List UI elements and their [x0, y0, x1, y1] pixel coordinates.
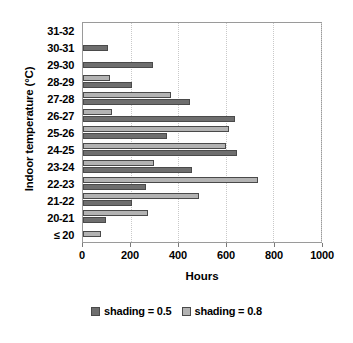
legend-swatch-icon	[91, 307, 100, 316]
plot-area	[82, 22, 322, 243]
bar-group	[83, 141, 321, 158]
legend-item: shading = 0.8	[182, 305, 262, 317]
y-axis-category-label: 25-26	[22, 124, 78, 141]
bar-group	[83, 40, 321, 57]
legend-item: shading = 0.5	[91, 305, 171, 317]
y-axis-category-label: 30-31	[22, 39, 78, 56]
bar-shading-0-8	[83, 177, 258, 183]
legend-label: shading = 0.5	[104, 305, 171, 317]
bar-shading-0-5	[83, 167, 192, 173]
bar-group	[83, 74, 321, 91]
bar-group	[83, 57, 321, 74]
bar-group	[83, 23, 321, 40]
y-axis-category-label: 31-32	[22, 22, 78, 39]
bar-shading-0-5	[83, 82, 132, 88]
bar-shading-0-8	[83, 193, 199, 199]
x-axis-tick	[322, 243, 323, 247]
bar-shading-0-8	[83, 143, 226, 149]
bar-shading-0-5	[83, 62, 153, 68]
x-axis-tick	[82, 243, 83, 247]
x-axis-title: Hours	[82, 270, 322, 282]
bar-group	[83, 225, 321, 242]
bar-group	[83, 107, 321, 124]
x-axis-tick-label: 400	[169, 249, 187, 261]
x-axis-tick-label: 1000	[310, 249, 334, 261]
x-axis-tick-label: 800	[265, 249, 283, 261]
x-axis-tick-label: 0	[79, 249, 85, 261]
y-axis-category-label: 21-22	[22, 192, 78, 209]
bar-shading-0-8	[83, 109, 112, 115]
bar-group	[83, 158, 321, 175]
bar-shading-0-5	[83, 150, 237, 156]
bar-shading-0-5	[83, 184, 146, 190]
bar-group	[83, 175, 321, 192]
bar-shading-0-8	[83, 75, 110, 81]
bar-group	[83, 191, 321, 208]
bar-group	[83, 90, 321, 107]
bar-shading-0-5	[83, 116, 235, 122]
y-axis-category-label: 27-28	[22, 90, 78, 107]
bar-shading-0-8	[83, 210, 148, 216]
x-axis-tick-label: 600	[217, 249, 235, 261]
x-axis-tick-label: 200	[121, 249, 139, 261]
y-axis-category-label: 23-24	[22, 158, 78, 175]
bar-shading-0-8	[83, 126, 229, 132]
bar-shading-0-5	[83, 200, 132, 206]
x-axis-tick	[130, 243, 131, 247]
legend: shading = 0.5shading = 0.8	[0, 305, 353, 317]
legend-swatch-icon	[182, 307, 191, 316]
bar-shading-0-8	[83, 92, 171, 98]
y-axis-category-label: 22-23	[22, 175, 78, 192]
bar-group	[83, 124, 321, 141]
legend-label: shading = 0.8	[195, 305, 262, 317]
y-axis-category-label: 29-30	[22, 56, 78, 73]
x-axis-tick	[178, 243, 179, 247]
bar-chart: Indoor temperature (°C) 31-3230-3129-302…	[0, 0, 353, 343]
x-axis-tick-labels: 02004006008001000	[82, 249, 322, 265]
bar-shading-0-5	[83, 45, 108, 51]
x-axis-tick	[226, 243, 227, 247]
gridline	[321, 23, 323, 242]
y-axis-category-label: 20-21	[22, 209, 78, 226]
bar-shading-0-5	[83, 99, 190, 105]
bar-group	[83, 208, 321, 225]
bar-shading-0-5	[83, 133, 167, 139]
y-axis-category-labels: 31-3230-3129-3028-2927-2826-2725-2624-25…	[22, 22, 78, 243]
bar-shading-0-5	[83, 217, 106, 223]
x-axis-tick	[274, 243, 275, 247]
bar-rows	[83, 23, 321, 242]
y-axis-category-label: 26-27	[22, 107, 78, 124]
y-axis-category-label: 28-29	[22, 73, 78, 90]
bar-shading-0-8	[83, 231, 101, 237]
y-axis-category-label: ≤ 20	[22, 226, 78, 243]
bar-shading-0-8	[83, 160, 154, 166]
x-axis-ticks	[82, 243, 322, 248]
y-axis-category-label: 24-25	[22, 141, 78, 158]
